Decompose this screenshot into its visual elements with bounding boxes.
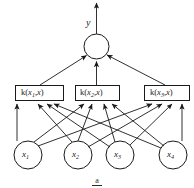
kernel3-suffix: ) bbox=[170, 87, 173, 97]
kernel-box-3-label: k(x3,x) bbox=[150, 88, 173, 98]
input-node-4-label: x4 bbox=[167, 150, 174, 160]
figure-caption: a bbox=[0, 176, 194, 185]
input3-sub: 3 bbox=[118, 154, 121, 160]
kernel-network-diagram: y k(x1,x) k(x2,x) k(x3,x) x1 x2 x3 x4 a bbox=[0, 0, 194, 188]
input-node-2-label: x2 bbox=[72, 150, 79, 160]
edge-x4-to-kernel1 bbox=[54, 104, 161, 148]
kernel2-suffix: ) bbox=[100, 87, 103, 97]
edge-kernel1-to-sum bbox=[40, 56, 87, 86]
input4-sub: 4 bbox=[171, 154, 174, 160]
input1-sub: 1 bbox=[26, 154, 29, 160]
edge-x4-to-kernel2 bbox=[112, 104, 164, 146]
input2-sub: 2 bbox=[76, 154, 79, 160]
input-node-3-label: x3 bbox=[114, 150, 121, 160]
edge-x2-to-kernel2 bbox=[78, 104, 92, 141]
caption-rule bbox=[92, 185, 102, 186]
kernel-box-1-label: k(x1,x) bbox=[21, 88, 44, 98]
edge-kernel3-to-sum bbox=[107, 55, 165, 85]
edge-x1-to-kernel2 bbox=[34, 104, 84, 142]
edge-x2-to-kernel3 bbox=[88, 104, 162, 147]
sum-node bbox=[84, 34, 109, 59]
kernel-box-2-label: k(x2,x) bbox=[80, 88, 103, 98]
kernel1-suffix: ) bbox=[41, 87, 44, 97]
input-node-1-label: x1 bbox=[22, 150, 29, 160]
output-label: y bbox=[86, 18, 90, 28]
